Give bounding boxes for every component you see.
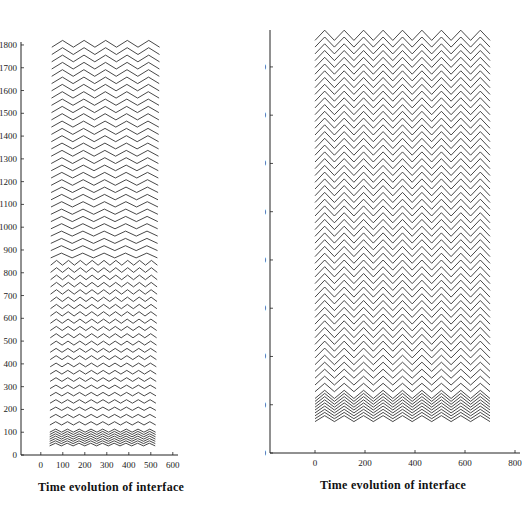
x-tick-label: 400 <box>122 460 136 470</box>
interface-curve <box>315 30 490 40</box>
interface-curve <box>315 44 490 54</box>
interface-curve <box>51 165 158 171</box>
y-tick-label: 700 <box>265 255 267 265</box>
y-tick-label: 900 <box>4 245 18 255</box>
interface-curve <box>315 301 490 311</box>
interface-curve <box>51 260 158 265</box>
y-tick-label: 700 <box>4 291 18 301</box>
left-chart-plot: 0100200300400500600700800900100011001200… <box>0 0 265 518</box>
y-tick-label: 600 <box>4 313 18 323</box>
interface-curve <box>52 48 160 55</box>
y-tick-label: 1000 <box>0 222 18 232</box>
y-tick-label: 1200 <box>0 177 18 187</box>
interface-curve <box>50 319 156 323</box>
interface-curve <box>51 297 158 301</box>
interface-curve <box>50 422 156 425</box>
interface-curve <box>315 240 490 250</box>
interface-curve <box>51 143 158 149</box>
right-chart-panel: −100100300500700900110013001500020040060… <box>265 0 530 518</box>
interface-curve <box>315 213 490 223</box>
interface-curve <box>52 106 159 112</box>
y-tick-label: −100 <box>265 448 266 458</box>
y-tick-label: 100 <box>4 427 18 437</box>
x-tick-label: 100 <box>56 460 70 470</box>
interface-curve <box>315 145 490 155</box>
interface-curve <box>52 40 160 47</box>
interface-curve <box>315 125 490 135</box>
interface-curve <box>50 341 156 345</box>
interface-curve <box>315 328 490 338</box>
interface-curve <box>52 84 160 90</box>
interface-curve <box>315 348 490 358</box>
interface-curve <box>315 186 490 196</box>
x-tick-label: 600 <box>458 458 472 468</box>
interface-curve <box>315 416 490 422</box>
interface-curve <box>315 84 490 94</box>
y-tick-label: 500 <box>4 336 18 346</box>
interface-curve <box>315 165 490 175</box>
y-tick-label: 1600 <box>0 86 18 96</box>
interface-curve <box>315 253 490 263</box>
interface-curve <box>315 267 490 277</box>
left-chart-panel: 0100200300400500600700800900100011001200… <box>0 0 265 518</box>
interface-curve <box>315 132 490 142</box>
y-tick-label: 1100 <box>265 158 266 168</box>
interface-curve <box>315 37 490 47</box>
interface-curve <box>51 180 158 186</box>
interface-curve <box>315 334 490 344</box>
y-tick-label: 1300 <box>0 154 18 164</box>
x-tick-label: 0 <box>39 460 44 470</box>
interface-curve <box>315 314 490 324</box>
interface-curve <box>315 152 490 162</box>
interface-curve <box>51 253 158 258</box>
x-tick-label: 600 <box>166 460 180 470</box>
interface-curve <box>315 260 490 270</box>
interface-curve <box>50 356 156 360</box>
y-tick-label: 0 <box>13 450 18 460</box>
interface-curve <box>51 275 158 280</box>
interface-curve <box>315 111 490 121</box>
interface-curve <box>315 179 490 189</box>
interface-curve <box>51 231 158 236</box>
interface-curve <box>50 414 156 417</box>
interface-curve <box>51 304 157 308</box>
interface-curve <box>52 70 160 77</box>
interface-curve <box>50 334 156 338</box>
interface-curve <box>315 71 490 81</box>
interface-curve <box>52 55 160 62</box>
interface-curve <box>52 62 160 69</box>
interface-curve <box>315 219 490 229</box>
y-tick-label: 300 <box>265 351 267 361</box>
interface-curve <box>315 118 490 128</box>
interface-curve <box>51 114 158 120</box>
interface-curve <box>51 150 158 156</box>
interface-curve <box>315 369 490 378</box>
x-tick-label: 400 <box>408 458 422 468</box>
interface-curve <box>51 128 158 134</box>
interface-curve <box>51 194 158 199</box>
interface-curve <box>50 392 156 396</box>
y-tick-label: 1400 <box>0 131 18 141</box>
interface-curve <box>50 363 156 367</box>
interface-curve <box>315 287 490 297</box>
interface-curve <box>315 206 490 216</box>
right-chart-plot: −100100300500700900110013001500020040060… <box>265 0 530 518</box>
interface-curve <box>51 224 158 229</box>
interface-curve <box>51 282 158 287</box>
interface-curve <box>51 136 158 142</box>
interface-curve <box>315 192 490 202</box>
x-tick-label: 500 <box>144 460 158 470</box>
interface-curve <box>51 290 158 295</box>
interface-curve <box>315 226 490 236</box>
interface-curve <box>315 98 490 108</box>
y-tick-label: 1700 <box>0 63 18 73</box>
interface-curve <box>315 199 490 209</box>
interface-curve <box>50 326 156 330</box>
y-tick-label: 300 <box>4 382 18 392</box>
interface-curve <box>50 443 156 446</box>
x-tick-label: 300 <box>100 460 114 470</box>
y-tick-label: 400 <box>4 359 18 369</box>
interface-curve <box>315 233 490 243</box>
interface-curve <box>51 187 158 192</box>
interface-curve <box>50 312 156 316</box>
